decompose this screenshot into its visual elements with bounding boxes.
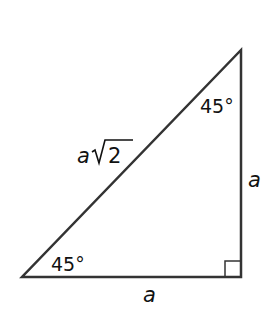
top-angle-label: 45°	[200, 95, 234, 117]
hypotenuse-label: a 2	[77, 140, 133, 168]
hypotenuse-radicand: 2	[108, 144, 121, 168]
bottom-angle-label: 45°	[51, 253, 85, 275]
vertical-leg-label: a	[248, 168, 261, 192]
horizontal-leg-label: a	[143, 283, 156, 307]
right-angle-marker	[225, 261, 241, 277]
hypotenuse-variable: a	[77, 144, 90, 168]
triangle	[22, 50, 241, 277]
triangle-diagram: 45° 45° a 2 a a	[0, 0, 270, 315]
